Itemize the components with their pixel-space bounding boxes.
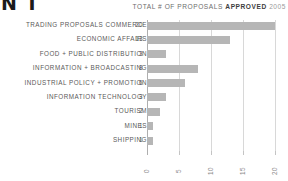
bar-track	[147, 63, 275, 77]
chart-row: INDUSTRIAL POLICY + PROMOTION6	[0, 78, 288, 92]
chart-row: TOURISM2	[0, 106, 288, 120]
bar	[147, 122, 153, 130]
chart-row: FOOD + PUBLIC DISTRIBUTION3	[0, 49, 288, 63]
x-tick-label: 10	[204, 159, 218, 177]
bar	[147, 93, 166, 101]
bar-category-label: INDUSTRIAL POLICY + PROMOTION	[25, 79, 147, 87]
bar-track	[147, 135, 275, 149]
bar-value-label: 6	[131, 79, 143, 87]
chart-row: SHIPPING1	[0, 135, 288, 149]
bar-track	[147, 121, 275, 135]
chart-row: INFORMATION + BROADCASTING8	[0, 63, 288, 77]
bar-track	[147, 78, 275, 92]
bar-track	[147, 20, 275, 34]
bar	[147, 22, 275, 30]
chart-caption: TOTAL # OF PROPOSALS APPROVED 2005	[133, 3, 286, 11]
bar	[147, 79, 185, 87]
bar-value-label: 20	[131, 21, 143, 29]
bar-category-label: TRADING PROPOSALS COMMERCE	[26, 21, 147, 29]
chart-row: ECONOMIC AFFAIRS13	[0, 34, 288, 48]
chart-row: TRADING PROPOSALS COMMERCE20	[0, 20, 288, 34]
chart-page: N T TOTAL # OF PROPOSALS APPROVED 2005 T…	[0, 0, 288, 181]
bar	[147, 50, 166, 58]
chart-row: INFORMATION TECHNOLOGY3	[0, 92, 288, 106]
bar-value-label: 8	[131, 64, 143, 72]
bar-value-label: 3	[131, 93, 143, 101]
x-tick-label: 5	[172, 159, 186, 177]
caption-year: 2005	[269, 3, 286, 10]
chart-rows: TRADING PROPOSALS COMMERCE20ECONOMIC AFF…	[0, 20, 288, 150]
bar	[147, 137, 153, 145]
bar-value-label: 1	[131, 136, 143, 144]
bar	[147, 36, 230, 44]
bar-value-label: 2	[131, 107, 143, 115]
caption-approved: APPROVED	[225, 3, 266, 10]
bar-value-label: 13	[131, 35, 143, 43]
caption-prefix: TOTAL # OF PROPOSALS	[133, 3, 223, 10]
bar-category-label: INFORMATION + BROADCASTING	[33, 64, 147, 72]
bar-value-label: 1	[131, 122, 143, 130]
bar	[147, 108, 160, 116]
bar-track	[147, 92, 275, 106]
masthead-logo: N T	[1, 0, 39, 13]
bar-track	[147, 34, 275, 48]
bar-chart: TRADING PROPOSALS COMMERCE20ECONOMIC AFF…	[0, 20, 288, 181]
x-tick-label: 15	[236, 159, 250, 177]
x-axis-tick-labels: 05101520	[147, 151, 287, 181]
bar-track	[147, 49, 275, 63]
chart-row: MINES1	[0, 121, 288, 135]
bar	[147, 65, 198, 73]
x-tick-label: 20	[268, 159, 282, 177]
x-tick-label: 0	[140, 159, 154, 177]
bar-track	[147, 106, 275, 120]
bar-value-label: 3	[131, 50, 143, 58]
